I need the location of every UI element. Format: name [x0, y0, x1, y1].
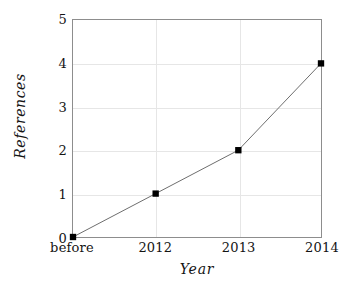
- y-axis-tick-labels: 5 4 3 2 1 0: [22, 19, 67, 238]
- x-tick-label: 2014: [277, 241, 354, 255]
- x-tick-label: 2012: [110, 241, 200, 255]
- data-series-layer: [73, 20, 321, 237]
- data-point-marker: [235, 147, 241, 153]
- data-point-marker: [318, 60, 324, 66]
- x-axis-tick-labels: before 2012 2013 2014: [72, 241, 322, 259]
- y-tick-label: 5: [27, 13, 67, 26]
- plot-area: [72, 19, 322, 238]
- series-line: [73, 63, 321, 237]
- x-axis-title: Year: [72, 261, 322, 277]
- x-tick-label: 2013: [194, 241, 284, 255]
- series-markers: [70, 60, 324, 240]
- chart-figure: References 5 4 3 2 1 0 before 2012 2013 …: [0, 0, 354, 282]
- y-tick-label: 3: [27, 101, 67, 114]
- x-tick-label: before: [27, 241, 117, 255]
- data-point-marker: [152, 190, 158, 196]
- y-tick-label: 4: [27, 57, 67, 70]
- y-tick-label: 1: [27, 188, 67, 201]
- y-tick-label: 2: [27, 144, 67, 157]
